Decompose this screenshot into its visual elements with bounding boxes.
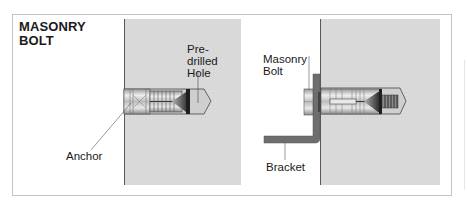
right-bolt-assembly bbox=[304, 88, 406, 115]
pre-drilled-hole-label: Pre- drilled Hole bbox=[187, 43, 218, 79]
bolt-label-line-2: Bolt bbox=[263, 65, 307, 77]
title-line-2: BOLT bbox=[19, 34, 86, 48]
hole-label-line-3: Hole bbox=[187, 67, 218, 79]
diagram-title: MASONRY BOLT bbox=[19, 20, 86, 48]
title-line-1: MASONRY bbox=[19, 20, 86, 34]
anchor-label: Anchor bbox=[66, 150, 102, 162]
hole-label-line-2: drilled bbox=[187, 55, 218, 67]
masonry-bolt-label: Masonry Bolt bbox=[263, 53, 307, 77]
bolt-label-line-1: Masonry bbox=[263, 53, 307, 65]
bracket-label: Bracket bbox=[266, 161, 305, 173]
hole-label-line-1: Pre- bbox=[187, 43, 218, 55]
